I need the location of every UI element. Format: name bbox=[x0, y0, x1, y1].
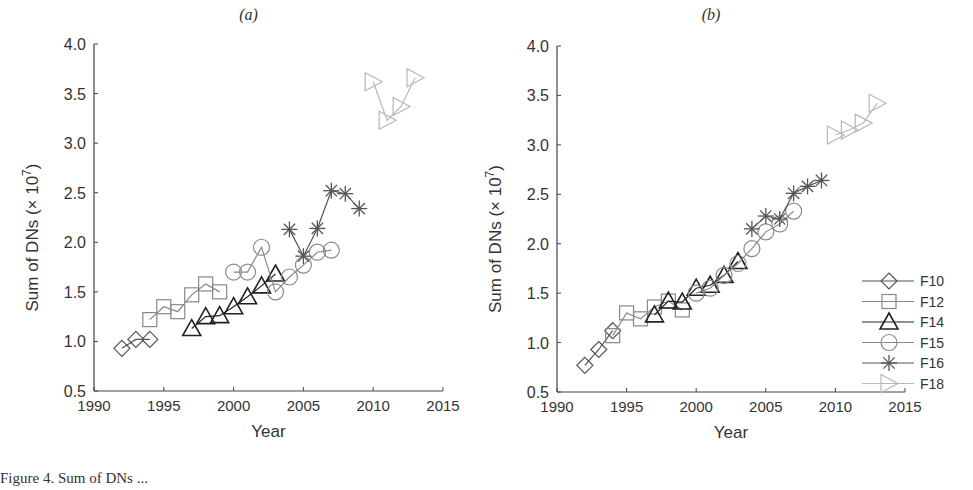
series-f15 bbox=[226, 239, 340, 300]
f16-marker bbox=[351, 201, 367, 217]
y-tick-label: 1.5 bbox=[527, 285, 549, 302]
x-tick-label: 1995 bbox=[147, 397, 180, 414]
panel-b-chart: 1990199520002005201020150.51.01.52.02.53… bbox=[483, 6, 944, 442]
y-tick-label: 1.0 bbox=[64, 333, 86, 350]
legend-f14-marker bbox=[880, 313, 898, 329]
legend-item-f15: F15 bbox=[862, 335, 944, 351]
y-tick-label: 1.5 bbox=[64, 284, 86, 301]
y-tick-label: 3.5 bbox=[527, 87, 549, 104]
y-tick-label: 3.5 bbox=[64, 86, 86, 103]
f16-marker bbox=[309, 220, 325, 236]
y-tick-label: 1.0 bbox=[527, 335, 549, 352]
x-tick-label: 2005 bbox=[749, 398, 782, 415]
series-f10 bbox=[114, 331, 158, 356]
f16-marker bbox=[813, 172, 829, 188]
x-axis-label: Year bbox=[714, 423, 749, 442]
y-tick-label: 4.0 bbox=[527, 38, 549, 55]
figure-caption: Figure 4. Sum of DNs ... bbox=[0, 470, 973, 490]
panel-a-chart: 1990199520002005201020150.51.01.52.02.53… bbox=[20, 6, 460, 441]
f16-marker bbox=[772, 211, 788, 227]
f16-marker bbox=[758, 208, 774, 224]
x-tick-label: 2015 bbox=[426, 397, 459, 414]
legend-item-f16: F16 bbox=[862, 355, 944, 371]
legend-item-f18: F18 bbox=[862, 375, 944, 393]
series-f12 bbox=[143, 277, 227, 327]
series-f18 bbox=[365, 69, 424, 130]
f16-marker bbox=[281, 221, 297, 237]
panel-title: (a) bbox=[239, 6, 258, 24]
legend-item-f12: F12 bbox=[862, 294, 944, 310]
x-axis-label: Year bbox=[251, 422, 286, 441]
x-tick-label: 2005 bbox=[287, 397, 320, 414]
legend-f16-marker bbox=[881, 355, 897, 371]
x-tick-label: 2010 bbox=[819, 398, 852, 415]
x-tick-label: 1995 bbox=[610, 398, 643, 415]
legend-label: F16 bbox=[920, 355, 944, 371]
series-f14 bbox=[183, 265, 285, 336]
series-f16 bbox=[281, 183, 367, 264]
x-tick-label: 2000 bbox=[680, 398, 713, 415]
y-tick-label: 3.0 bbox=[527, 137, 549, 154]
legend-label: F14 bbox=[920, 314, 944, 330]
legend-item-f14: F14 bbox=[862, 313, 944, 330]
y-tick-label: 2.5 bbox=[527, 186, 549, 203]
x-tick-label: 2010 bbox=[357, 397, 390, 414]
legend-label: F15 bbox=[920, 335, 944, 351]
legend-item-f10: F10 bbox=[862, 273, 944, 289]
series-line bbox=[234, 247, 332, 292]
y-tick-label: 2.0 bbox=[64, 234, 86, 251]
series-line bbox=[752, 180, 822, 228]
f16-marker bbox=[323, 183, 339, 199]
series-line bbox=[585, 331, 613, 366]
legend-label: F10 bbox=[920, 273, 944, 289]
x-tick-label: 2015 bbox=[888, 398, 921, 415]
y-tick-label: 0.5 bbox=[64, 383, 86, 400]
y-tick-label: 2.5 bbox=[64, 185, 86, 202]
series-f14 bbox=[645, 253, 747, 322]
series-line bbox=[192, 274, 276, 329]
f16-marker bbox=[337, 186, 353, 202]
y-axis-label: Sum of DNs (× 107) bbox=[483, 165, 505, 313]
axes bbox=[557, 46, 905, 392]
f18-marker bbox=[869, 94, 886, 112]
legend: F10F12F14F15F16F18 bbox=[862, 273, 944, 393]
f16-marker bbox=[295, 248, 311, 264]
f16-marker bbox=[744, 221, 760, 237]
y-tick-label: 3.0 bbox=[64, 135, 86, 152]
y-tick-label: 4.0 bbox=[64, 36, 86, 53]
f18-marker bbox=[407, 69, 424, 87]
legend-label: F12 bbox=[920, 294, 944, 310]
y-tick-label: 2.0 bbox=[527, 236, 549, 253]
f16-marker bbox=[800, 178, 816, 194]
series-f18 bbox=[827, 94, 886, 144]
legend-label: F18 bbox=[920, 376, 944, 392]
x-tick-label: 2000 bbox=[217, 397, 250, 414]
f16-marker bbox=[786, 185, 802, 201]
panel-title: (b) bbox=[702, 6, 721, 24]
y-axis-label: Sum of DNs (× 107) bbox=[20, 164, 42, 312]
y-tick-label: 0.5 bbox=[527, 384, 549, 401]
series-f10 bbox=[577, 323, 621, 374]
